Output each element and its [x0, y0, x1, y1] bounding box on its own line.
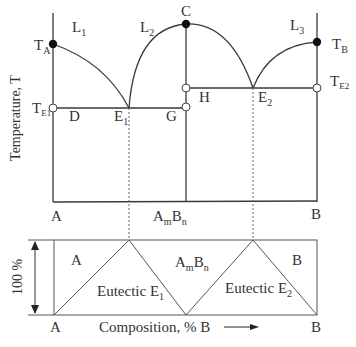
liquidus-A-E1: [53, 44, 129, 108]
point-H-open: [182, 84, 190, 92]
projection-lines: [129, 88, 253, 240]
arrow-right-icon: [250, 324, 259, 330]
x-label-compound: AmBn: [153, 208, 187, 227]
lower-y-label: 100 %: [10, 259, 25, 296]
lower-x-label-B: B: [311, 319, 321, 335]
phase-diagram: Temperature, T L1 L2 L3 TA TE1 C D E1 G …: [0, 0, 356, 347]
label-H: H: [199, 89, 210, 105]
label-TA: TA: [34, 37, 51, 56]
label-L1: L1: [72, 19, 86, 38]
label-L2: L2: [140, 19, 154, 38]
label-C: C: [181, 3, 191, 19]
x-label-A: A: [51, 208, 62, 224]
arrow-down-icon: [31, 305, 39, 314]
label-E2: E2: [258, 89, 272, 108]
lower-x-label-A: A: [50, 319, 61, 335]
point-C-filled: [182, 20, 190, 28]
label-D: D: [69, 108, 80, 124]
upper-labels: L1 L2 L3 TA TE1 C D E1 G H E2 TB TE2 A A…: [32, 3, 349, 227]
label-TB: TB: [332, 36, 348, 55]
region-B: B: [292, 252, 302, 268]
liquidus-C-E2: [186, 24, 253, 88]
y-axis-label: Temperature, T: [8, 75, 23, 161]
label-G: G: [166, 108, 177, 124]
point-TE2-open: [313, 84, 321, 92]
liquidus-E2-B: [253, 42, 317, 88]
region-A: A: [71, 252, 82, 268]
point-G-open: [182, 103, 190, 111]
point-TB-filled: [313, 38, 321, 46]
region-compound: AmBn: [175, 254, 209, 273]
region-eutectic-2: Eutectic E2: [225, 280, 292, 299]
liquidus-E1-C: [129, 24, 186, 108]
lower-panel-frame: [54, 240, 317, 315]
region-eutectic-1: Eutectic E1: [97, 283, 164, 302]
label-L3: L3: [290, 17, 304, 36]
baseline: [53, 201, 317, 202]
arrow-up-icon: [31, 241, 39, 250]
label-TE2: TE2: [330, 73, 349, 91]
label-TE1: TE1: [32, 100, 51, 118]
x-label-B: B: [311, 206, 321, 222]
eutectic-zigzag: [54, 240, 317, 315]
label-E1: E1: [114, 108, 128, 127]
markers: [49, 20, 321, 112]
composition-axis-label: Composition, % B: [99, 319, 210, 335]
